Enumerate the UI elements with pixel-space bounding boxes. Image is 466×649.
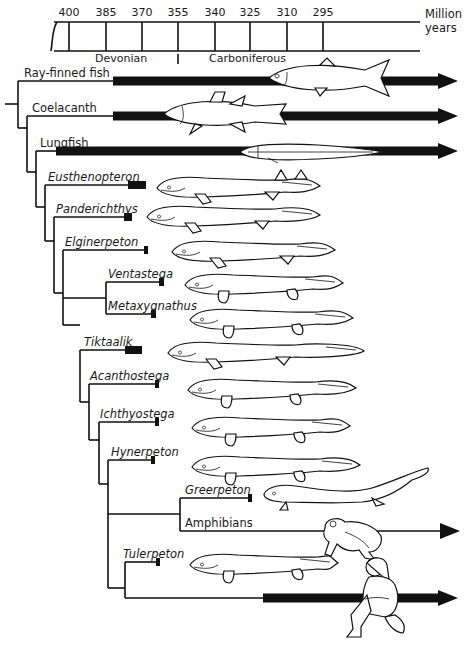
taxon-label: Panderichthys	[56, 202, 138, 216]
tick-label: 340	[205, 6, 226, 19]
period-label: Devonian	[95, 52, 147, 65]
ray-finned-fish-illustration-icon	[269, 58, 389, 96]
diagram-canvas: 400385370355340325310295 Million years D…	[0, 0, 466, 649]
tick-label: 400	[59, 6, 80, 19]
tiktaalik-illustration-icon	[168, 342, 364, 369]
tick-label: 325	[240, 6, 261, 19]
creature-illustrations	[147, 58, 428, 637]
fossil-range-bar	[263, 594, 438, 603]
taxon-label: Ichthyostega	[100, 407, 175, 421]
tick-label: 370	[132, 6, 153, 19]
timeline-ticks: 400385370355340325310295	[59, 6, 334, 51]
tulerpeton-illustration-icon	[190, 554, 338, 583]
elginerpeton-illustration-icon	[172, 241, 335, 268]
taxon-label: Greerpeton	[185, 483, 251, 497]
tick-label: 355	[168, 6, 189, 19]
arrow-head-icon	[440, 523, 460, 539]
taxon-label: Ray-finned fish	[24, 66, 110, 80]
taxon-label: Lungfish	[40, 136, 89, 150]
taxon-label: Tiktaalik	[84, 335, 134, 349]
taxon-label: Amphibians	[185, 516, 253, 530]
arrow-head-icon	[438, 590, 458, 606]
timeline-broken-edge	[51, 22, 57, 51]
tick-label: 385	[96, 6, 117, 19]
taxon-label: Acanthostega	[89, 369, 169, 383]
taxon-branch	[125, 590, 458, 606]
taxon-label: Eusthenopteron	[48, 170, 140, 184]
metaxygnathus-illustration-icon	[190, 309, 353, 338]
panderichthys-illustration-icon	[147, 206, 320, 233]
arrow-head-icon	[438, 73, 458, 89]
arrow-head-icon	[438, 143, 458, 159]
taxon-label: Elginerpeton	[65, 235, 138, 249]
period-label: Carboniferous	[209, 52, 286, 65]
fossil-range-bar	[144, 246, 148, 254]
taxon-label: Metaxygnathus	[108, 299, 197, 313]
taxon-label: Hynerpeton	[111, 445, 179, 459]
unit-label-million: Million	[425, 7, 462, 21]
coelacanth-illustration-icon	[164, 92, 286, 134]
taxon-label: Tulerpeton	[123, 547, 184, 561]
arrow-head-icon	[438, 108, 458, 124]
ichthyostega-illustration-icon	[192, 417, 350, 446]
ventastega-illustration-icon	[185, 274, 343, 303]
hynerpeton-illustration-icon	[192, 456, 360, 485]
greerpeton-illustration-icon	[264, 468, 428, 510]
eusthenopteron-illustration-icon	[157, 170, 320, 204]
taxon-label: Coelacanth	[32, 101, 97, 115]
acanthostega-illustration-icon	[188, 379, 356, 408]
timeline-scale: 400385370355340325310295 Million years D…	[51, 6, 462, 65]
tick-label: 295	[313, 6, 334, 19]
tick-label: 310	[277, 6, 298, 19]
phylogeny-diagram: 400385370355340325310295 Million years D…	[0, 0, 466, 649]
frog-illustration-icon	[324, 519, 382, 560]
unit-label-years: years	[425, 21, 457, 35]
period-labels: DevonianCarboniferous	[95, 52, 286, 65]
taxon-label: Ventastega	[108, 267, 173, 281]
